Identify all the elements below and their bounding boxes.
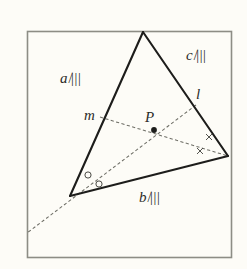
tick-marks-a: ̸|||: [71, 71, 82, 86]
label-side-a: a̸|||: [60, 71, 81, 86]
point-p-dot: [151, 127, 157, 133]
label-side-b-text: b: [139, 189, 147, 205]
label-point-p: P: [145, 110, 154, 125]
label-side-b: b̸|||: [139, 190, 160, 205]
label-line-l: l: [196, 87, 200, 102]
label-side-c: c̸|||: [186, 48, 206, 63]
label-line-m: m: [84, 108, 95, 123]
tick-marks-b: ̸|||: [150, 190, 161, 205]
label-side-a-text: a: [60, 70, 68, 86]
diagram-canvas: [0, 0, 247, 269]
label-side-c-text: c: [186, 47, 193, 63]
geometry-figure: a̸||| c̸||| b̸||| l m P: [0, 0, 247, 269]
figure-frame: [28, 32, 232, 258]
tick-marks-c: ̸|||: [196, 48, 207, 63]
